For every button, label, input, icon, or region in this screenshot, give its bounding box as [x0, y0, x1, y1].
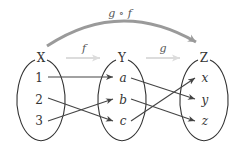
map-c-x: [131, 78, 195, 121]
element-2: 2: [35, 93, 43, 107]
g-label: g: [159, 42, 166, 55]
set-z-label: Z: [200, 51, 208, 65]
map-b-z: [131, 99, 195, 121]
element-1: 1: [35, 71, 43, 85]
composition-arrow: [47, 21, 196, 46]
element-3: 3: [35, 114, 43, 128]
function-composition-diagram: g ∘ f f g X 1 2 3 Y a b c Z x y z: [0, 0, 241, 150]
element-z: z: [201, 114, 209, 128]
map-a-y: [131, 78, 195, 99]
element-x: x: [202, 71, 209, 85]
element-a: a: [119, 71, 126, 85]
composition-label: g ∘ f: [108, 7, 133, 20]
f-label: f: [81, 42, 88, 55]
element-b: b: [119, 93, 127, 107]
set-y-label: Y: [117, 51, 127, 65]
element-c: c: [120, 114, 127, 128]
element-y: y: [201, 93, 209, 107]
set-x-label: X: [37, 51, 46, 65]
